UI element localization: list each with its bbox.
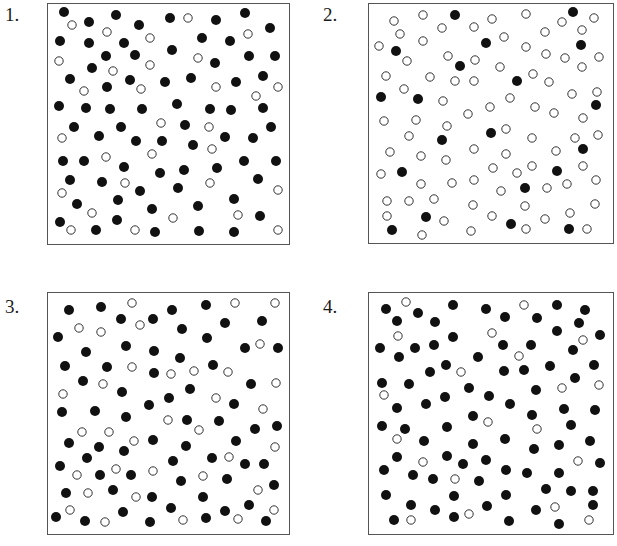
dot-panel-2 bbox=[368, 3, 614, 244]
panel-label-1: 1. bbox=[5, 5, 19, 24]
dot-panel-4 bbox=[368, 292, 614, 535]
dot-panel-1 bbox=[47, 3, 290, 245]
dot-panel-3 bbox=[47, 292, 290, 535]
panel-label-2: 2. bbox=[323, 5, 337, 24]
panel-label-4: 4. bbox=[323, 297, 337, 316]
panel-label-3: 3. bbox=[5, 297, 19, 316]
